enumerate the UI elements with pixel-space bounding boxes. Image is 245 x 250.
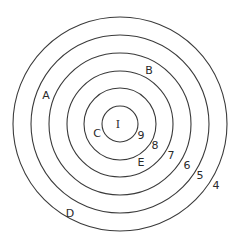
label-7: 7 bbox=[168, 150, 175, 161]
label-d: D bbox=[66, 208, 74, 219]
label-5: 5 bbox=[197, 170, 204, 181]
label-e: E bbox=[138, 157, 145, 168]
concentric-rings-diagram bbox=[0, 0, 245, 250]
label-b: B bbox=[145, 65, 153, 76]
label-a: A bbox=[42, 90, 50, 101]
label-c: C bbox=[93, 128, 101, 139]
label-8: 8 bbox=[152, 140, 159, 151]
label-6: 6 bbox=[184, 160, 191, 171]
label-9: 9 bbox=[138, 130, 145, 141]
label-center-i: I bbox=[116, 119, 120, 130]
label-4: 4 bbox=[213, 180, 220, 191]
